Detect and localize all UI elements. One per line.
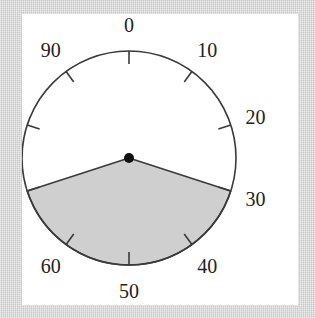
- figure-card: 0102030405060708090: [22, 14, 298, 305]
- tick-mark-90: [66, 71, 74, 82]
- tick-label-20: 20: [245, 106, 265, 128]
- shaded-sector-layer: [27, 158, 231, 265]
- center-dot: [124, 153, 134, 163]
- tick-label-40: 40: [197, 255, 217, 277]
- tick-mark-10: [184, 71, 192, 82]
- tick-label-90: 90: [41, 39, 61, 61]
- circular-dial-figure: 0102030405060708090: [22, 14, 298, 305]
- page-root: 0102030405060708090: [0, 0, 315, 318]
- dial-svg: 0102030405060708090: [22, 14, 298, 305]
- tick-label-10: 10: [197, 39, 217, 61]
- tick-mark-80: [27, 125, 39, 129]
- tick-label-50: 50: [119, 280, 139, 302]
- tick-label-30: 30: [245, 188, 265, 210]
- tick-label-60: 60: [41, 255, 61, 277]
- tick-mark-20: [218, 125, 230, 129]
- shaded-sector: [27, 158, 231, 265]
- tick-label-0: 0: [124, 14, 134, 36]
